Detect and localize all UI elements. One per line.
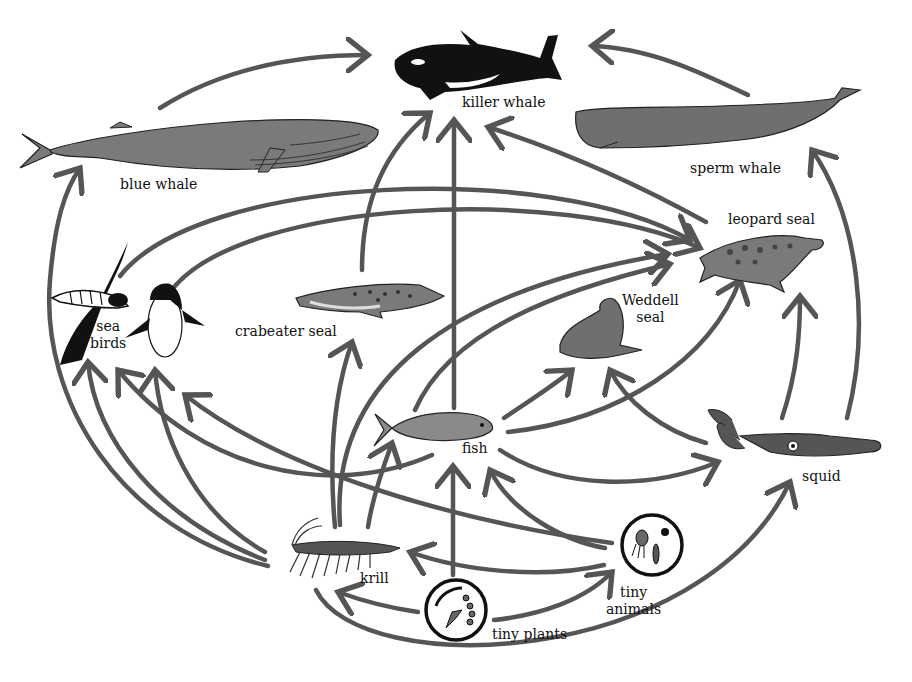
arrow-krill-to-squid — [316, 482, 790, 645]
arrow-tinyanimals-to-krill — [410, 552, 604, 572]
arrow-krill-to-seabirds-1 — [88, 362, 265, 560]
arrow-tinyplants-to-tinyanimals — [494, 572, 612, 620]
blue-whale-icon — [20, 120, 378, 172]
sea-bird-penguin-icon — [125, 284, 205, 357]
food-web-diagram — [0, 0, 912, 682]
crabeater-seal-icon — [296, 284, 444, 318]
label-tiny-animals-line2: animals — [606, 601, 661, 618]
label-killer-whale: killer whale — [462, 94, 545, 111]
label-krill: krill — [360, 570, 389, 587]
label-sea-birds-line1: sea — [90, 318, 126, 335]
arrow-krill-to-fish — [368, 443, 392, 527]
sperm-whale-icon — [576, 88, 860, 148]
squid-icon — [708, 409, 881, 455]
label-squid: squid — [802, 468, 841, 485]
label-weddell-line2: seal — [622, 309, 679, 326]
label-tiny-plants: tiny plants — [492, 626, 567, 643]
label-sperm-whale: sperm whale — [690, 160, 781, 177]
label-crabeater-seal: crabeater seal — [235, 323, 337, 340]
label-weddell-line1: Weddell — [622, 292, 679, 309]
krill-icon — [290, 518, 400, 578]
arrow-bluewhale-to-killerwhale — [160, 55, 368, 108]
arrow-krill-to-bluewhale — [49, 168, 268, 566]
label-weddell-seal: Weddell seal — [622, 292, 679, 326]
label-fish: fish — [462, 440, 488, 457]
arrow-squid-to-spermwhale — [812, 150, 859, 418]
arrow-fish-to-squid — [500, 450, 718, 482]
tiny-animals-icon — [622, 515, 682, 575]
label-tiny-animals: tiny animals — [606, 584, 661, 618]
label-blue-whale: blue whale — [120, 176, 197, 193]
arrow-spermwhale-to-killerwhale — [592, 46, 748, 95]
leopard-seal-icon — [700, 236, 823, 292]
label-tiny-animals-line1: tiny — [606, 584, 661, 601]
arrow-squid-to-leopard — [782, 296, 800, 418]
label-leopard-seal: leopard seal — [728, 211, 815, 228]
killer-whale-icon — [395, 30, 562, 100]
tiny-plants-icon — [426, 580, 486, 640]
arrow-tinyplants-to-krill — [338, 592, 418, 612]
arrow-fish-to-weddell — [504, 370, 572, 418]
label-sea-birds: sea birds — [90, 318, 126, 352]
label-sea-birds-line2: birds — [90, 335, 126, 352]
arrow-krill-to-crabeater — [332, 342, 352, 527]
